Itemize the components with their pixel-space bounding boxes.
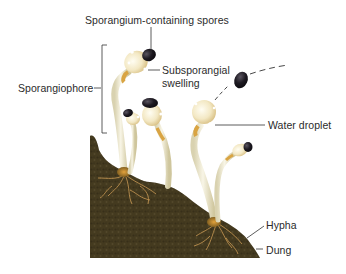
label-sporangium: Sporangium-containing spores [85,14,229,26]
label-sporangiophore: Sporangiophore [18,82,93,94]
label-subsporangial: Subsporangial [162,64,230,76]
label-swelling: swelling [162,77,200,89]
sporangiophore-3 [142,98,169,186]
hypha-leader [247,226,264,238]
label-hypha: Hypha [266,219,297,231]
label-dung: Dung [266,244,291,256]
label-water-droplet: Water droplet [268,119,331,131]
illustration [0,0,346,274]
sporangiophore-5 [217,142,253,220]
pilobolus-diagram: Sporangium-containing spores Sporangioph… [0,0,346,274]
